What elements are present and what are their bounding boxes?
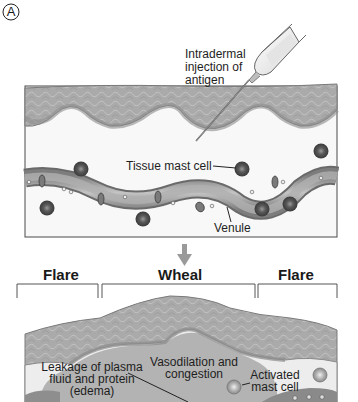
wheal-label: Wheal — [158, 266, 202, 283]
panel-label: A — [5, 4, 17, 20]
flare-left-label: Flare — [43, 266, 79, 283]
activated-label-line2: mast cell — [245, 381, 305, 393]
activated-mast-cell-label: Activated mast cell — [245, 369, 305, 393]
vasodilation-label-line2: congestion — [144, 368, 244, 380]
edema-label-line3: (edema) — [40, 385, 144, 397]
edema-label: Leakage of plasma fluid and protein (ede… — [40, 361, 144, 397]
tissue-mast-cell-label: Tissue mast cell — [126, 160, 212, 173]
injection-label-line3: antigen — [185, 74, 246, 87]
vasodilation-label: Vasodilation and congestion — [144, 356, 244, 380]
flare-right-label: Flare — [278, 266, 314, 283]
down-arrow-icon — [177, 244, 192, 266]
wheal-flare-illustration — [0, 0, 358, 402]
venule-label: Venule — [214, 222, 251, 235]
injection-label: Intradermal injection of antigen — [185, 48, 246, 87]
